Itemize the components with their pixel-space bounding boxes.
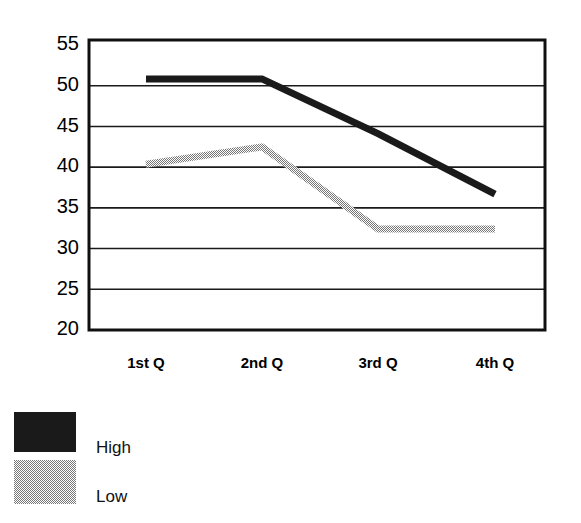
legend-swatch-low bbox=[14, 460, 76, 504]
x-tick-label: 2nd Q bbox=[241, 354, 284, 371]
legend-swatch-high bbox=[14, 412, 76, 452]
y-tick-label: 40 bbox=[57, 154, 79, 176]
line-chart: 20 25 30 35 40 45 50 55 1st Q 2nd Q 3rd … bbox=[0, 0, 581, 523]
x-tick-label: 4th Q bbox=[476, 354, 515, 371]
chart-canvas: 20 25 30 35 40 45 50 55 1st Q 2nd Q 3rd … bbox=[0, 0, 581, 523]
y-tick-label: 35 bbox=[57, 195, 79, 217]
x-tick-label: 1st Q bbox=[127, 354, 165, 371]
y-tick-label: 20 bbox=[57, 317, 79, 339]
y-tick-label: 45 bbox=[57, 114, 79, 136]
y-tick-label: 25 bbox=[57, 277, 79, 299]
chart-background bbox=[0, 0, 581, 523]
y-tick-label: 30 bbox=[57, 236, 79, 258]
legend-label-high: High bbox=[96, 438, 131, 457]
y-tick-label: 50 bbox=[57, 73, 79, 95]
legend-label-low: Low bbox=[96, 487, 128, 506]
x-tick-label: 3rd Q bbox=[358, 354, 398, 371]
y-tick-label: 55 bbox=[57, 32, 79, 54]
